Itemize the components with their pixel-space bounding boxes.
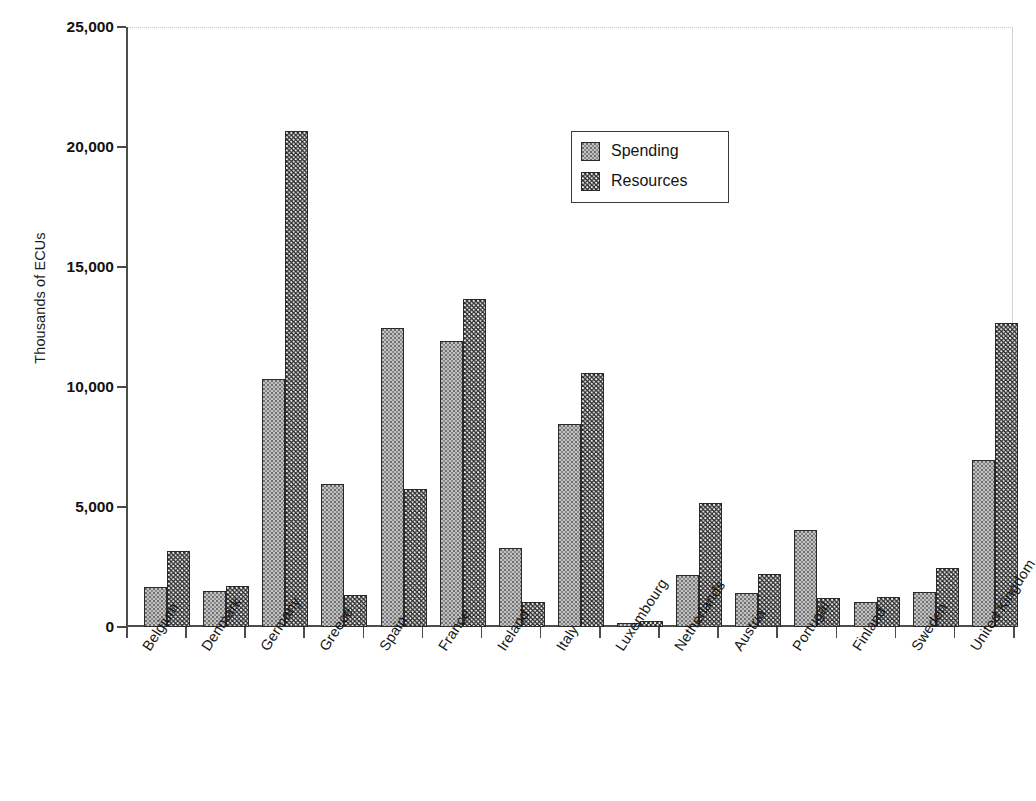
legend[interactable]: Spending Resources [571,131,729,203]
bar-group [731,27,790,627]
y-tick-label: 5,000 [28,499,114,515]
y-axis-line [126,27,128,627]
y-axis-title: Thousands of ECUs [32,188,48,408]
y-tick-mark [117,26,126,28]
bar-group [495,27,554,627]
bar-spending[interactable] [972,460,995,627]
bar-spending[interactable] [558,424,581,627]
bar-group [377,27,436,627]
bar-group [850,27,909,627]
legend-swatch-spending-icon [581,142,600,161]
x-tick-mark [836,627,838,638]
bar-resources[interactable] [404,489,427,627]
x-tick-mark [303,627,305,638]
x-tick-mark [244,627,246,638]
bar-spending[interactable] [381,328,404,627]
legend-swatch-resources-icon [581,172,600,191]
bar-spending[interactable] [262,379,285,627]
bar-group [613,27,672,627]
bar-resources[interactable] [463,299,486,627]
x-tick-mark [363,627,365,638]
bar-group [672,27,731,627]
y-tick-label: 10,000 [28,379,114,395]
x-tick-mark [717,627,719,638]
y-tick-mark [117,626,126,628]
legend-label-spending: Spending [611,142,679,160]
bar-group [968,27,1027,627]
y-tick-mark [117,386,126,388]
y-tick-label: 20,000 [28,139,114,155]
plot-area [126,27,1013,627]
bar-group [317,27,376,627]
x-tick-mark [599,627,601,638]
x-tick-mark [1013,627,1015,638]
x-tick-mark [776,627,778,638]
bar-group [140,27,199,627]
bar-group [554,27,613,627]
x-tick-mark [658,627,660,638]
bar-chart: Thousands of ECUs 05,00010,00015,00020,0… [0,0,1036,801]
x-tick-mark [481,627,483,638]
x-tick-mark [954,627,956,638]
bar-group [436,27,495,627]
y-tick-label: 15,000 [28,259,114,275]
y-tick-label: 0 [28,619,114,635]
bar-group [258,27,317,627]
bar-group [909,27,968,627]
x-tick-mark [422,627,424,638]
bar-spending[interactable] [440,341,463,627]
y-tick-mark [117,506,126,508]
y-tick-mark [117,266,126,268]
x-tick-mark [540,627,542,638]
x-tick-mark [895,627,897,638]
x-tick-mark [126,627,128,638]
legend-item-resources[interactable]: Resources [581,170,687,192]
legend-label-resources: Resources [611,172,687,190]
bar-resources[interactable] [581,373,604,627]
x-tick-mark [185,627,187,638]
y-tick-mark [117,146,126,148]
y-tick-label: 25,000 [28,19,114,35]
bar-group [199,27,258,627]
bar-resources[interactable] [285,131,308,627]
legend-item-spending[interactable]: Spending [581,140,679,162]
bar-group [790,27,849,627]
